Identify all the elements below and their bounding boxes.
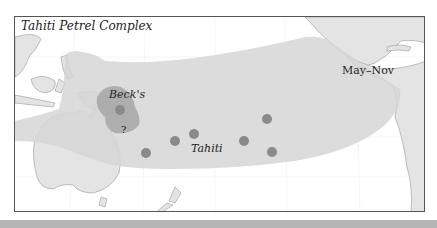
new-zealand-south bbox=[155, 203, 173, 212]
breeding-dot-becks bbox=[115, 105, 125, 115]
breeding-dot-tahiti bbox=[141, 148, 151, 158]
asia-coast bbox=[15, 34, 41, 77]
breeding-dot-tahiti bbox=[239, 136, 249, 146]
range-map: Tahiti Petrel Complex Beck's ? Tahiti Ma… bbox=[14, 16, 425, 212]
map-canvas bbox=[15, 17, 425, 212]
tahiti-label: Tahiti bbox=[191, 143, 223, 154]
becks-label: Beck's bbox=[109, 89, 145, 100]
bottom-band bbox=[0, 220, 437, 228]
breeding-dot-tahiti bbox=[267, 147, 277, 157]
new-zealand-north bbox=[169, 187, 181, 203]
breeding-dot-tahiti bbox=[170, 136, 180, 146]
caribbean-islands bbox=[387, 45, 411, 51]
borneo bbox=[31, 76, 55, 93]
season-label: May–Nov bbox=[342, 65, 394, 76]
breeding-dot-tahiti bbox=[262, 114, 272, 124]
tasmania bbox=[99, 197, 107, 207]
uncertain-range-label: ? bbox=[121, 125, 126, 135]
map-title: Tahiti Petrel Complex bbox=[21, 20, 152, 32]
breeding-dot-tahiti bbox=[189, 129, 199, 139]
